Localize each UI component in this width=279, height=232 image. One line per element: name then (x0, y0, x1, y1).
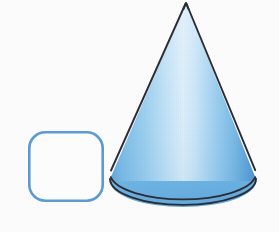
cone-shape (110, 3, 256, 207)
rounded-square-shape (29, 132, 102, 200)
rounded-square-outline (29, 132, 102, 200)
geometry-figure-svg (0, 0, 279, 232)
figure-canvas (0, 0, 279, 232)
cone-lateral-surface-vertical-shade (111, 3, 255, 199)
